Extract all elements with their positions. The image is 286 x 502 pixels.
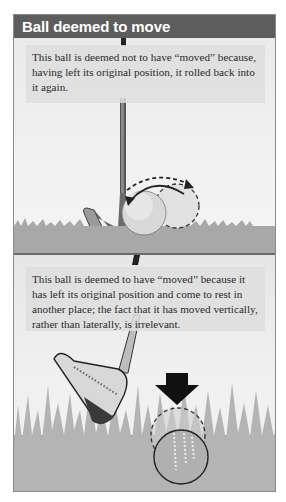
panel-1-caption: This ball is deemed not to have “moved” … [26,45,265,103]
club-shaft-top-icon [132,255,140,265]
panel-2-caption: This ball is deemed to have “moved” beca… [26,267,265,331]
panel-moved: This ball is deemed to have “moved” beca… [14,255,275,492]
panel-not-moved: This ball is deemed not to have “moved” … [14,38,275,254]
tall-grass-icon [14,383,275,492]
sunken-golf-ball-icon [154,430,208,484]
rule-illustration-card: Ball deemed to move [13,14,276,492]
down-arrow-icon [155,373,199,405]
card-title: Ball deemed to move [14,15,275,38]
